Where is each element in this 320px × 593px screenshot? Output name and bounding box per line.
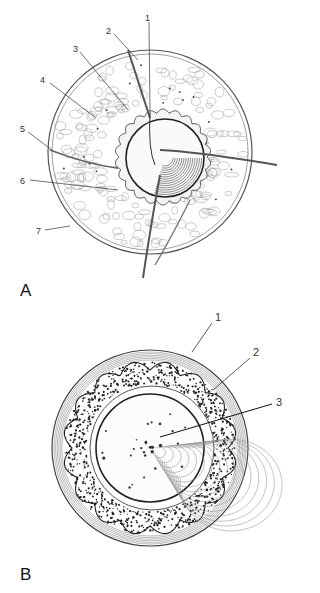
panel-b-dot	[181, 386, 183, 388]
panel-b-dot	[208, 502, 210, 504]
panel-b-dot	[89, 472, 91, 474]
panel-b-dot	[216, 411, 217, 412]
panel-b-dot	[211, 395, 212, 396]
panel-b-dot	[83, 409, 85, 411]
panel-b-dot	[143, 527, 144, 528]
panel-b-dot	[101, 495, 103, 497]
panel-b-dot	[181, 512, 183, 514]
panel-b-dot	[220, 494, 222, 496]
panel-b-dot	[194, 399, 195, 400]
panel-a-callout-6: 6	[20, 176, 25, 186]
panel-b-dot	[213, 475, 215, 477]
panel-a-nucleus	[208, 121, 210, 123]
panel-b-dot	[205, 411, 207, 413]
panel-b-dot	[161, 380, 162, 381]
panel-b-dot	[218, 481, 220, 483]
panel-b-dot	[69, 457, 71, 459]
panel-b-dot	[87, 430, 88, 431]
panel-b-dot	[123, 384, 125, 386]
panel-b-dot	[148, 511, 150, 513]
panel-b-dot	[90, 480, 91, 481]
panel-b-dot	[211, 389, 212, 390]
panel-b-dot	[233, 436, 234, 437]
panel-b-dot	[82, 483, 84, 485]
panel-b-dot	[219, 414, 221, 416]
panel-b-dot	[187, 391, 189, 393]
panel-b-dot	[136, 380, 138, 382]
panel-b-dot	[200, 397, 201, 398]
panel-b-dot	[157, 511, 159, 513]
panel-b-dot	[89, 393, 91, 395]
panel-b-dot	[193, 378, 195, 380]
panel-b-dot	[79, 444, 81, 446]
panel-b-dot	[144, 529, 146, 531]
panel-b-dot	[172, 530, 174, 532]
panel-b-dot	[177, 517, 178, 518]
panel-b-dot	[110, 385, 112, 387]
panel-b-sphere-dot	[143, 476, 145, 478]
panel-b-dot	[130, 371, 131, 372]
panel-b-dot	[111, 499, 113, 501]
panel-b-dot	[85, 393, 86, 394]
panel-b-dot	[76, 459, 77, 460]
panel-b-dot	[127, 380, 129, 382]
panel-b-callout-3: 3	[276, 396, 282, 408]
panel-b-dot	[102, 511, 103, 512]
panel-b-dot	[98, 392, 100, 394]
panel-b-dot	[88, 501, 89, 502]
panel-b-dot	[86, 456, 88, 458]
panel-b-dot	[195, 383, 196, 384]
panel-b-dot	[69, 445, 71, 447]
panel-b-dot	[216, 463, 218, 465]
panel-b-dot	[78, 409, 80, 411]
panel-b-dot	[142, 372, 144, 374]
panel-b-dot	[185, 375, 186, 376]
panel-b-dot	[69, 419, 71, 421]
panel-b-dot	[122, 523, 123, 524]
panel-b-sphere-dot	[144, 454, 146, 456]
panel-b-dot	[170, 367, 172, 369]
panel-b-dot	[204, 389, 205, 390]
panel-b-leader-2	[213, 358, 250, 390]
panel-b-sphere-dot	[151, 446, 154, 449]
panel-b-dot	[76, 445, 78, 447]
panel-b-dot	[133, 516, 135, 518]
panel-b-label: B	[20, 565, 31, 584]
panel-b-dot	[205, 414, 207, 416]
panel-b-dot	[66, 427, 68, 429]
panel-b-sphere-dot	[130, 454, 132, 456]
panel-b-dot	[133, 383, 135, 385]
panel-b-dot	[152, 362, 154, 364]
panel-a-callout-7: 7	[36, 226, 41, 236]
panel-b-dot	[130, 369, 132, 371]
panel-b-sphere-dot	[140, 447, 142, 449]
panel-b-sphere-dot	[136, 439, 138, 441]
panel-b-dot	[114, 522, 116, 524]
panel-b-dot	[203, 509, 204, 510]
panel-b-dot	[114, 523, 115, 524]
panel-b-dot	[127, 514, 128, 515]
panel-b-dot	[214, 436, 216, 438]
panel-b-sphere-dot	[149, 446, 152, 449]
panel-b-dot	[135, 362, 137, 364]
panel-b-dot	[231, 462, 233, 464]
panel-b-dot	[169, 375, 170, 376]
panel-b-dot	[71, 449, 73, 451]
panel-b-dot	[177, 385, 178, 386]
panel-b-dot	[195, 499, 197, 501]
panel-b-dot	[70, 470, 71, 471]
panel-b-dot	[119, 367, 121, 369]
panel-b-dot	[219, 402, 221, 404]
panel-b-dot	[92, 399, 94, 401]
panel-b-dot	[126, 519, 128, 521]
panel-b-dot	[125, 365, 126, 366]
panel-b-sphere-dot	[151, 450, 154, 453]
panel-b-dot	[222, 458, 224, 460]
panel-b-dot	[168, 385, 170, 387]
panel-b-dot	[199, 406, 201, 408]
panel-b-dot	[89, 404, 91, 406]
panel-b-dot	[100, 490, 101, 491]
panel-b-dot	[153, 524, 155, 526]
panel-b-dot	[176, 506, 178, 508]
panel-b-sphere-dot	[102, 456, 105, 459]
